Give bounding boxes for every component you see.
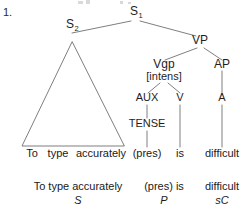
scan-artifact — [86, 0, 90, 4]
terminal-accurately: accurately — [76, 148, 126, 160]
analysis-predicator-text: (pres) is — [144, 180, 184, 192]
node-vp: VP — [192, 34, 208, 47]
node-aux: AUX — [136, 92, 159, 104]
s2-triangle — [22, 42, 124, 146]
analysis-subject-function: S — [34, 194, 123, 208]
terminal-pres: (pres) — [133, 148, 162, 160]
node-vgp-feature: [intens] — [146, 71, 181, 83]
node-a: A — [218, 92, 225, 104]
node-s2: S2 — [66, 18, 78, 31]
analysis-predicator: (pres) is P — [144, 180, 184, 208]
scan-artifact — [78, 1, 83, 4]
node-s2-subscript: 2 — [74, 24, 78, 33]
scan-artifact — [120, 1, 123, 4]
node-s1-label: S — [130, 4, 138, 18]
node-s2-label: S — [66, 17, 74, 31]
analysis-complement: difficult sC — [205, 180, 239, 208]
syntax-tree-diagram: 1. — [0, 0, 251, 215]
analysis-subject: To type accurately S — [34, 180, 123, 208]
analysis-subject-text: To type accurately — [34, 180, 123, 192]
terminal-is: is — [176, 148, 184, 160]
item-number: 1. — [3, 6, 12, 18]
node-s1: S1 — [130, 5, 142, 18]
node-s1-subscript: 1 — [138, 11, 142, 20]
terminal-difficult: difficult — [205, 148, 239, 160]
node-tense: TENSE — [129, 118, 166, 130]
node-ap: AP — [214, 58, 230, 71]
analysis-complement-function: sC — [205, 194, 239, 208]
analysis-complement-text: difficult — [205, 180, 239, 192]
node-vgp: Vgp — [153, 58, 174, 71]
terminal-to: To — [26, 148, 38, 160]
edge-s1-vp — [140, 21, 196, 36]
terminal-type: type — [48, 148, 69, 160]
analysis-predicator-function: P — [144, 194, 184, 208]
edge-s1-s2 — [72, 21, 131, 33]
node-v: V — [176, 92, 183, 104]
